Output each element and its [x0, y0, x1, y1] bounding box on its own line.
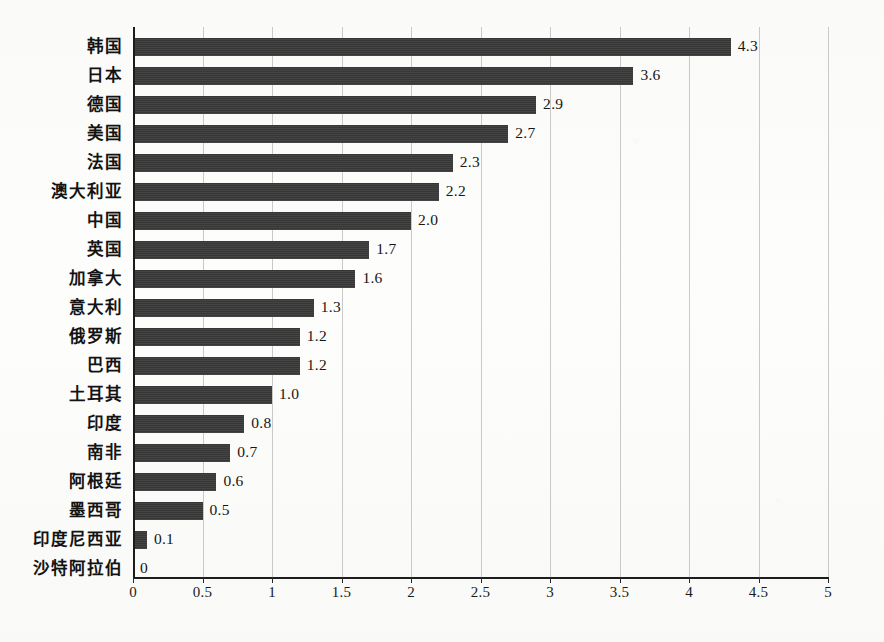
tick-mark-3-5 — [620, 577, 621, 583]
y-axis-line — [133, 27, 135, 578]
x-tick-label: 0.5 — [193, 584, 212, 601]
bar-row: 2.2 — [133, 178, 828, 207]
category-label: 南非 — [87, 445, 123, 462]
tick-mark-2-5 — [481, 577, 482, 583]
x-tick-label: 1 — [268, 584, 276, 601]
bar-value-label: 2.3 — [460, 153, 480, 171]
category-label-row: 英国 — [87, 236, 123, 265]
category-label-row: 巴西 — [87, 352, 123, 381]
category-label-row: 沙特阿拉伯 — [33, 555, 123, 584]
bar-value-label: 1.7 — [376, 240, 396, 258]
bar-value-label: 1.3 — [321, 298, 341, 316]
bar-value-label: 0.8 — [251, 414, 271, 432]
bar-value-label: 1.2 — [307, 327, 327, 345]
bar — [133, 386, 272, 404]
bar-row: 0.1 — [133, 526, 828, 555]
tick-mark-0 — [133, 577, 134, 583]
category-label-row: 美国 — [87, 120, 123, 149]
bar-value-label: 4.3 — [738, 37, 758, 55]
x-tick-label: 5 — [824, 584, 832, 601]
category-axis-labels: 韩国日本德国美国法国澳大利亚中国英国加拿大意大利俄罗斯巴西土耳其印度南非阿根廷墨… — [0, 27, 128, 578]
bar-value-label: 1.2 — [307, 356, 327, 374]
category-label-row: 中国 — [87, 207, 123, 236]
category-label: 阿根廷 — [69, 474, 123, 491]
category-label: 韩国 — [87, 39, 123, 56]
bar — [133, 502, 203, 520]
bar-value-label: 1.0 — [279, 385, 299, 403]
bar-row: 2.3 — [133, 149, 828, 178]
tick-mark-4-5 — [759, 577, 760, 583]
category-label: 中国 — [87, 213, 123, 230]
category-label: 英国 — [87, 242, 123, 259]
bar-value-label: 0.6 — [223, 472, 243, 490]
category-label-row: 南非 — [87, 439, 123, 468]
category-label: 美国 — [87, 126, 123, 143]
bar — [133, 212, 411, 230]
bar-row: 2.0 — [133, 207, 828, 236]
category-label: 巴西 — [87, 358, 123, 375]
category-label: 加拿大 — [69, 271, 123, 288]
x-tick-label: 4.5 — [749, 584, 768, 601]
tick-mark-5 — [828, 577, 829, 583]
category-label: 法国 — [87, 155, 123, 172]
bar — [133, 38, 731, 56]
category-label: 日本 — [87, 68, 123, 85]
chart-page: 韩国日本德国美国法国澳大利亚中国英国加拿大意大利俄罗斯巴西土耳其印度南非阿根廷墨… — [0, 0, 884, 642]
bar — [133, 154, 453, 172]
bar — [133, 241, 369, 259]
tick-mark-1 — [272, 577, 273, 583]
bar-row: 4.3 — [133, 33, 828, 62]
category-label: 印度尼西亚 — [33, 532, 123, 549]
x-tick-label: 0 — [129, 584, 137, 601]
bar-value-label: 2.0 — [418, 211, 438, 229]
category-label-row: 俄罗斯 — [69, 323, 123, 352]
bar-row: 1.2 — [133, 323, 828, 352]
category-label-row: 加拿大 — [69, 265, 123, 294]
category-label-row: 印度 — [87, 410, 123, 439]
category-label-row: 法国 — [87, 149, 123, 178]
category-label-row: 土耳其 — [69, 381, 123, 410]
category-label-row: 澳大利亚 — [51, 178, 123, 207]
x-tick-label: 2 — [407, 584, 415, 601]
tick-mark-1-5 — [342, 577, 343, 583]
x-tick-label: 4 — [685, 584, 693, 601]
bar-value-label: 0.1 — [154, 530, 174, 548]
bar-row: 0.8 — [133, 410, 828, 439]
bar-row: 1.2 — [133, 352, 828, 381]
gridline-5 — [828, 27, 829, 578]
bar-value-label: 3.6 — [640, 66, 660, 84]
bar-row: 0.7 — [133, 439, 828, 468]
bar-row: 2.9 — [133, 91, 828, 120]
bar — [133, 531, 147, 549]
bar-value-label: 1.6 — [362, 269, 382, 287]
bar-value-label: 2.7 — [515, 124, 535, 142]
bar-value-label: 0.7 — [237, 443, 257, 461]
bar-row: 0.5 — [133, 497, 828, 526]
bar — [133, 125, 508, 143]
category-label: 澳大利亚 — [51, 184, 123, 201]
bar-row: 1.6 — [133, 265, 828, 294]
x-tick-label: 1.5 — [332, 584, 351, 601]
x-tick-label: 2.5 — [471, 584, 490, 601]
bar — [133, 444, 230, 462]
bar-row: 1.0 — [133, 381, 828, 410]
bar — [133, 96, 536, 114]
category-label: 沙特阿拉伯 — [33, 561, 123, 578]
bar-row: 1.7 — [133, 236, 828, 265]
plot-area: 4.33.62.92.72.32.22.01.71.61.31.21.21.00… — [133, 27, 828, 578]
bar — [133, 415, 244, 433]
category-label-row: 意大利 — [69, 294, 123, 323]
category-label: 印度 — [87, 416, 123, 433]
category-label: 意大利 — [69, 300, 123, 317]
bar-value-label: 2.9 — [543, 95, 563, 113]
category-label: 墨西哥 — [69, 503, 123, 520]
category-label-row: 日本 — [87, 62, 123, 91]
bar-value-label: 0.5 — [210, 501, 230, 519]
tick-mark-4 — [689, 577, 690, 583]
bar — [133, 270, 355, 288]
tick-mark-2 — [411, 577, 412, 583]
category-label: 德国 — [87, 97, 123, 114]
bar-row: 1.3 — [133, 294, 828, 323]
category-label-row: 墨西哥 — [69, 497, 123, 526]
bar — [133, 183, 439, 201]
